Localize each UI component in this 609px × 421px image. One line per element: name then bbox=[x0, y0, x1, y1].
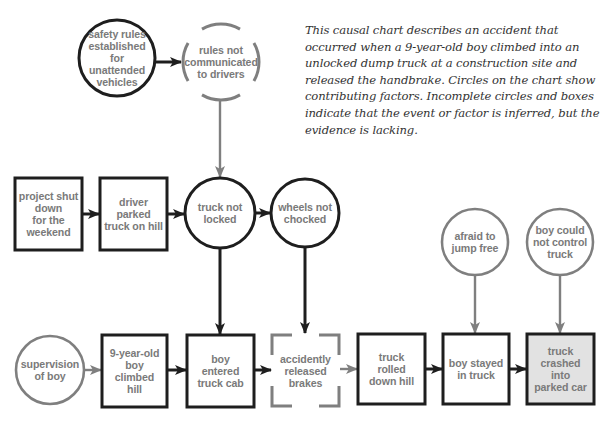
node-label-accidently-released-brakes: accidently released brakes bbox=[272, 335, 339, 406]
node-label-project-shut-down: project shut down for the weekend bbox=[15, 178, 82, 250]
node-label-driver-parked: driver parked truck on hill bbox=[100, 178, 167, 250]
node-label-boy-entered-cab: boy entered truck cab bbox=[187, 335, 254, 407]
causal-chart: This causal chart describes an accident … bbox=[0, 0, 609, 421]
node-label-truck-not-locked: truck not locked bbox=[185, 178, 255, 248]
node-label-wheels-not-chocked: wheels not chocked bbox=[271, 179, 339, 247]
node-label-supervision-of-boy: supervision of boy bbox=[16, 336, 84, 404]
node-label-boy-could-not-control: boy could not control truck bbox=[527, 209, 593, 275]
node-label-afraid-to-jump: afraid to jump free bbox=[442, 209, 508, 275]
node-label-boy-stayed: boy stayed in truck bbox=[443, 334, 509, 404]
chart-caption: This causal chart describes an accident … bbox=[305, 22, 605, 138]
node-label-safety-rules: safety rules established for unattended … bbox=[79, 20, 155, 96]
node-label-rules-not-communicated: rules not communicated to drivers bbox=[183, 24, 259, 100]
node-label-truck-rolled: truck rolled down hill bbox=[358, 334, 425, 404]
node-label-truck-crashed: truck crashed into parked car bbox=[527, 334, 594, 404]
node-label-boy-climbed-hill: 9-year-old boy climbed hill bbox=[102, 335, 167, 407]
